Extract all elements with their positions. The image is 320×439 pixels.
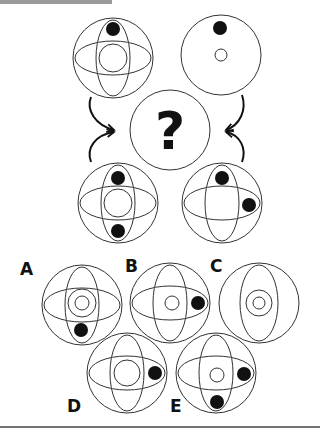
option-c[interactable] [219, 263, 299, 343]
option-label-b: B [125, 256, 138, 276]
dot-icon [215, 171, 229, 185]
dot-icon [106, 22, 120, 36]
option-label-d: D [67, 396, 81, 416]
option-label-c: C [210, 256, 222, 276]
option-e[interactable] [176, 333, 256, 413]
puzzle-diagram: ? A B C [0, 0, 320, 439]
option-b[interactable] [130, 263, 210, 343]
dot-icon [213, 21, 227, 35]
input-figure-top-left [73, 18, 153, 98]
header-bar [0, 0, 112, 4]
dot-icon [237, 367, 251, 381]
option-d[interactable] [87, 333, 167, 413]
dot-icon [210, 395, 224, 409]
option-label-e: E [170, 396, 182, 416]
input-figure-bottom-right [182, 163, 262, 243]
input-figure-bottom-left [78, 163, 158, 243]
dot-icon [148, 366, 162, 380]
question-figure: ? [130, 90, 210, 170]
question-mark: ? [155, 101, 185, 161]
dot-icon [111, 224, 125, 238]
dot-icon [74, 323, 88, 337]
dot-icon [242, 198, 256, 212]
dot-icon [191, 296, 205, 310]
input-figure-top-right [181, 15, 261, 95]
dot-icon [111, 171, 125, 185]
option-a[interactable] [42, 265, 122, 345]
option-label-a: A [20, 259, 34, 279]
